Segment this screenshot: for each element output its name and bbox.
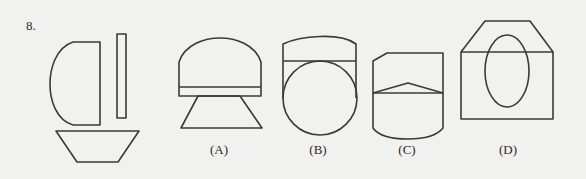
- given-pieces: [50, 34, 139, 162]
- thin-rectangle-piece: [117, 34, 126, 118]
- option-d-figure[interactable]: [461, 21, 553, 119]
- d-shape-piece: [50, 42, 100, 125]
- option-b-figure[interactable]: [283, 36, 357, 135]
- option-c-label[interactable]: (C): [398, 142, 415, 158]
- option-d-label[interactable]: (D): [499, 142, 517, 158]
- option-a-label[interactable]: (A): [210, 142, 228, 158]
- option-b-label[interactable]: (B): [309, 142, 326, 158]
- option-c-figure[interactable]: [373, 53, 443, 139]
- trapezoid-piece: [56, 131, 139, 162]
- option-a-figure[interactable]: [179, 38, 262, 128]
